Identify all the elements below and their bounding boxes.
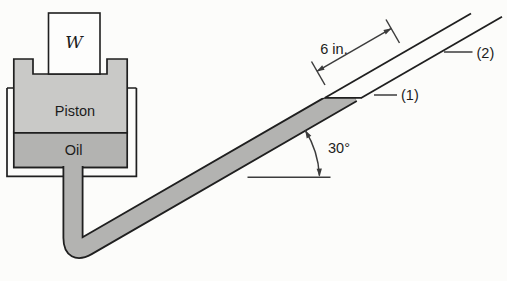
angle-arrow-top-icon <box>305 130 311 138</box>
point-1-label: (1) <box>401 87 419 103</box>
dimension-arrow-right-icon <box>383 28 391 34</box>
angle-arrow-bottom-icon <box>317 169 322 177</box>
figure-piston-oil-inclined-tube: W Piston Oil 6 in. 30° (1) (2) <box>0 0 507 281</box>
weight-label: W <box>65 32 84 52</box>
dimension-label: 6 in. <box>320 41 347 57</box>
angle-label: 30° <box>328 140 350 156</box>
point-2-label: (2) <box>477 45 495 61</box>
piston-label: Piston <box>55 103 95 119</box>
oil-label: Oil <box>65 142 83 158</box>
